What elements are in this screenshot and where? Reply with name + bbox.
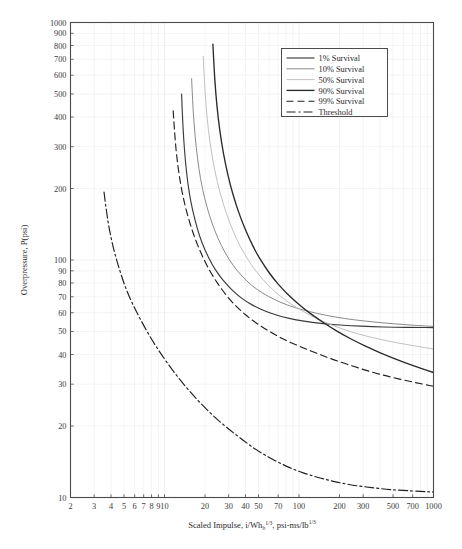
y-tick-label: 30 [58,380,66,389]
chart-legend: 1% Survival10% Survival50% Survival90% S… [282,49,388,118]
legend-label: 10% Survival [319,65,365,74]
y-tick-label: 800 [54,42,66,51]
x-tick-label: 2 [68,502,72,511]
legend-label: 99% Survival [319,97,365,106]
x-tick-label: 200 [333,502,345,511]
y-tick-label: 10 [58,494,66,503]
y-tick-label: 40 [58,351,66,360]
y-tick-label: 700 [54,55,66,64]
x-tick-label: 700 [406,502,418,511]
x-tick-label: 20 [201,502,209,511]
x-tick-label: 500 [387,502,399,511]
legend-label: Threshold [319,108,354,117]
chart-background [0,0,462,549]
y-tick-label: 90 [58,267,66,276]
y-tick-label: 80 [58,279,66,288]
x-axis-title: Scaled Impulse, i/Whb1/3, psi-ms/lb1/3 [188,519,316,531]
y-tick-label: 600 [54,71,66,80]
y-tick-label: 70 [58,293,66,302]
x-tick-label: 8 [149,502,153,511]
chart-container: 234567891020304050701002003005007001000 … [0,0,462,549]
x-tick-label: 100 [293,502,305,511]
legend-label: 50% Survival [319,76,365,85]
y-tick-label: 60 [58,309,66,318]
x-tick-label: 50 [254,502,262,511]
y-tick-label: 100 [54,256,66,265]
x-tick-label: 1000 [425,502,442,511]
y-tick-label: 900 [54,29,66,38]
y-axis-title: Overpressure, P(psi) [19,225,29,296]
legend-label: 1% Survival [319,54,361,63]
x-tick-label: 10 [160,502,168,511]
overpressure-impulse-chart: 234567891020304050701002003005007001000 … [0,0,462,549]
x-tick-label: 3 [92,502,96,511]
y-tick-label: 300 [54,143,66,152]
y-tick-label: 200 [54,185,66,194]
x-tick-label: 70 [274,502,282,511]
x-tick-label: 30 [225,502,233,511]
y-tick-label: 20 [58,422,66,431]
y-tick-label: 500 [54,90,66,99]
y-tick-label: 400 [54,113,66,122]
x-tick-label: 6 [133,502,137,511]
legend-label: 90% Survival [319,87,365,96]
x-tick-label: 40 [241,502,249,511]
x-tick-label: 7 [142,502,146,511]
x-tick-label: 5 [122,502,126,511]
y-tick-label: 1000 [50,19,67,28]
y-tick-label: 50 [58,327,66,336]
x-tick-label: 300 [357,502,369,511]
